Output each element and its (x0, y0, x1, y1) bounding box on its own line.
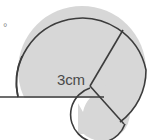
degree-symbol-label: ° (3, 22, 7, 33)
radius-label: 3cm (57, 72, 85, 87)
geometry-figure: 3cm ° (0, 0, 155, 140)
geometry-canvas (0, 0, 155, 140)
lower-left-cutout-2 (0, 98, 75, 140)
